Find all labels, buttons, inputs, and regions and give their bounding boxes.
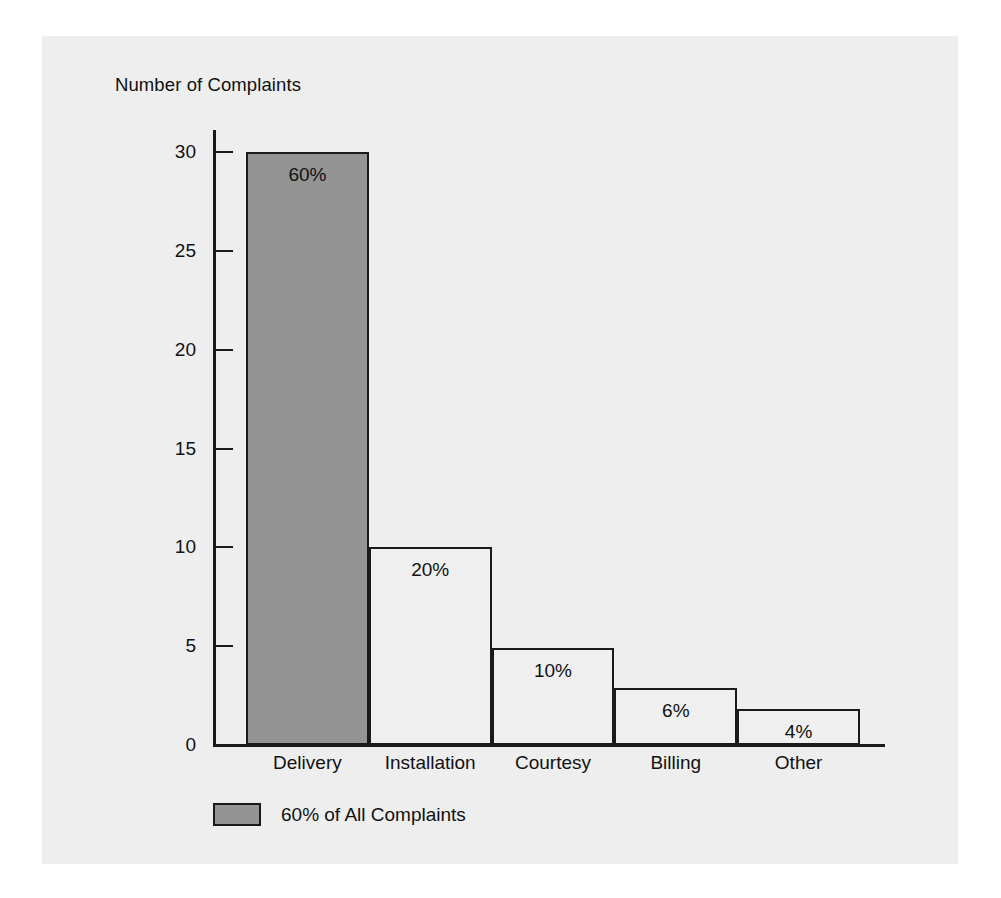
y-tick-mark: [215, 151, 233, 153]
y-tick-label: 10: [150, 536, 196, 558]
y-tick-label: 0: [150, 734, 196, 756]
y-tick-mark: [215, 645, 233, 647]
category-label-delivery: Delivery: [273, 752, 342, 774]
y-tick-mark: [215, 744, 233, 746]
category-label-billing: Billing: [650, 752, 701, 774]
y-tick-label: 5: [150, 635, 196, 657]
y-tick-label: 15: [150, 438, 196, 460]
legend-swatch-highlight: [213, 803, 261, 826]
bar-value-label: 4%: [785, 721, 812, 743]
category-label-other: Other: [775, 752, 823, 774]
y-axis-line: [213, 130, 216, 747]
y-tick-label: 30: [150, 141, 196, 163]
y-tick-mark: [215, 546, 233, 548]
bar-value-label: 10%: [534, 660, 572, 682]
bar-value-label: 60%: [288, 164, 326, 186]
y-tick-mark: [215, 349, 233, 351]
bar-value-label: 6%: [662, 700, 689, 722]
category-label-courtesy: Courtesy: [515, 752, 591, 774]
bar-value-label: 20%: [411, 559, 449, 581]
figure-root: Number of Complaints 302520151050 60%20%…: [0, 0, 1001, 898]
y-tick-label: 20: [150, 339, 196, 361]
y-tick-mark: [215, 250, 233, 252]
legend: 60% of All Complaints: [213, 803, 466, 826]
y-tick-label: 25: [150, 240, 196, 262]
y-tick-mark: [215, 448, 233, 450]
bar-delivery[interactable]: [246, 152, 369, 745]
legend-label: 60% of All Complaints: [281, 804, 466, 826]
plot-area: 302520151050 60%20%10%6%4% DeliveryInsta…: [0, 0, 1001, 898]
category-label-installation: Installation: [385, 752, 476, 774]
